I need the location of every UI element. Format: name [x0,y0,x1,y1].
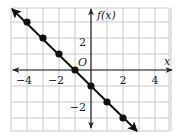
x-tick-label: −4 [16,74,32,87]
axis-labels: −4−2242−2xf(x)O [16,9,171,114]
y-axis-label: f(x) [96,9,116,22]
x-tick-label: 4 [152,74,159,87]
data-point [23,18,30,25]
origin-label: O [78,56,87,69]
data-point [39,34,46,41]
x-tick-label: −2 [48,74,64,87]
y-tick-label: −2 [70,101,86,114]
data-point [119,114,126,121]
y-tick-label: 2 [79,36,86,49]
axes [13,9,172,128]
x-axis-label: x [164,55,171,68]
data-point [55,50,62,57]
data-point [103,98,110,105]
data-point [87,82,94,89]
x-tick-label: 2 [120,74,127,87]
function-graph: −4−2242−2xf(x)O [0,0,176,134]
